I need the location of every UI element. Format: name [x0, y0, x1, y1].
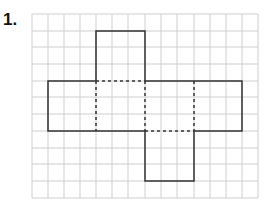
grid-diagram	[0, 0, 266, 214]
fold-lines	[96, 81, 194, 131]
